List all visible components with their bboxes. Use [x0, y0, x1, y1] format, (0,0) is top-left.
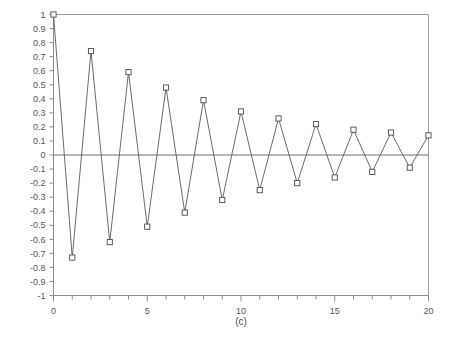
- y-tick-label: 0.3: [33, 108, 46, 118]
- y-tick-label: -0.6: [30, 235, 46, 245]
- data-point-marker: [88, 48, 93, 53]
- y-tick-label: 0.5: [33, 80, 46, 90]
- data-point-marker: [70, 255, 75, 260]
- y-tick-label: -0.1: [30, 164, 46, 174]
- data-point-marker: [163, 85, 168, 90]
- y-tick-label: 0.7: [33, 52, 46, 62]
- y-tick-label: 1: [40, 10, 45, 20]
- data-point-marker: [51, 12, 56, 17]
- data-point-marker: [145, 224, 150, 229]
- y-tick-label: 0.1: [33, 136, 46, 146]
- y-tick-label: 0.8: [33, 38, 46, 48]
- chart-background: [0, 0, 466, 340]
- y-tick-label: 0.9: [33, 24, 46, 34]
- data-point-marker: [182, 210, 187, 215]
- data-point-marker: [107, 240, 112, 245]
- figure-panel-c: 10.90.80.70.60.50.40.30.20.10-0.1-0.2-0.…: [0, 0, 466, 340]
- y-tick-label: -0.3: [30, 192, 46, 202]
- y-tick-label: 0: [40, 150, 45, 160]
- y-tick-label: 0.4: [33, 94, 46, 104]
- data-point-marker: [126, 70, 131, 75]
- x-tick-label: 10: [236, 306, 246, 316]
- data-point-marker: [220, 197, 225, 202]
- x-tick-label: 15: [330, 306, 340, 316]
- data-point-marker: [388, 130, 393, 135]
- y-tick-label: 0.6: [33, 66, 46, 76]
- y-tick-label: -0.9: [30, 277, 46, 287]
- data-point-marker: [295, 181, 300, 186]
- x-tick-label: 0: [51, 306, 56, 316]
- y-tick-label: -0.8: [30, 263, 46, 273]
- data-point-marker: [351, 127, 356, 132]
- data-point-marker: [313, 121, 318, 126]
- y-tick-label: -0.5: [30, 220, 46, 230]
- figure-caption: (c): [235, 316, 247, 327]
- y-tick-label: -0.2: [30, 178, 46, 188]
- data-point-marker: [407, 165, 412, 170]
- y-tick-label: -0.4: [30, 206, 46, 216]
- y-tick-label: 0.2: [33, 122, 46, 132]
- data-point-marker: [238, 109, 243, 114]
- y-tick-label: -1: [37, 291, 45, 301]
- data-point-marker: [276, 116, 281, 121]
- y-tick-label: -0.7: [30, 249, 46, 259]
- data-point-marker: [201, 98, 206, 103]
- data-point-marker: [257, 188, 262, 193]
- data-point-marker: [332, 175, 337, 180]
- data-point-marker: [370, 169, 375, 174]
- x-tick-label: 5: [145, 306, 150, 316]
- data-point-marker: [426, 133, 431, 138]
- chart-canvas: 10.90.80.70.60.50.40.30.20.10-0.1-0.2-0.…: [0, 0, 466, 340]
- x-tick-label: 20: [423, 306, 433, 316]
